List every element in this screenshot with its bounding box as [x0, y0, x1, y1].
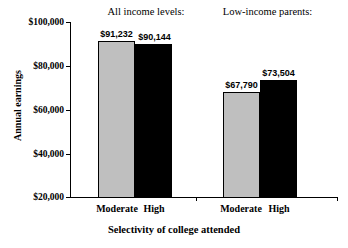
- bar-value-low-income-high: $73,504: [250, 68, 307, 78]
- x-category-label-low-income-high: High: [260, 203, 298, 215]
- bar-value-all-income-high: $90,144: [126, 32, 183, 42]
- bar-value-low-income-moderate: $67,790: [213, 80, 270, 90]
- bar-low-income-high: [260, 80, 297, 198]
- x-axis-title: Selectivity of college attended: [0, 224, 348, 235]
- bar-all-income-high: [135, 44, 172, 198]
- bar-low-income-moderate: [223, 92, 260, 198]
- bar-chart: Annual earnings $100,000 $80,000 $60,000…: [0, 0, 348, 248]
- bar-all-income-moderate: [98, 41, 135, 198]
- x-category-label-all-income-high: High: [135, 203, 173, 215]
